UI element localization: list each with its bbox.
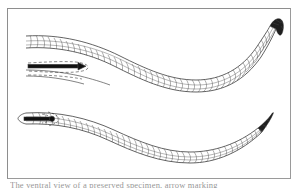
lower-ventral-contour — [26, 124, 262, 163]
lower-specimen — [18, 112, 273, 164]
upper-tail — [270, 19, 283, 35]
probe-arrow-lower — [24, 116, 55, 121]
upper-ventral-contour — [26, 29, 276, 92]
snake-illustration — [0, 0, 303, 188]
lower-scale-longitudinals — [24, 117, 261, 160]
lower-tail — [258, 113, 273, 132]
figure-plate: The ventral view of a preserved specimen… — [0, 0, 303, 188]
probe-arrow-upper — [28, 62, 86, 70]
figure-caption: The ventral view of a preserved specimen… — [10, 181, 293, 188]
upper-dorsal-contour — [26, 26, 270, 80]
upper-specimen — [26, 19, 283, 93]
